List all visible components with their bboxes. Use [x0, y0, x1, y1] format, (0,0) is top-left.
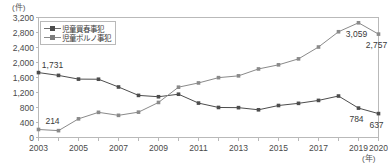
series-marker	[57, 129, 61, 133]
series-marker	[117, 114, 121, 118]
series-marker	[37, 128, 41, 132]
series-marker	[237, 74, 241, 78]
data-point-label: 784	[349, 114, 363, 124]
legend-item: 児童ポルノ事犯	[44, 33, 111, 42]
series-marker	[77, 77, 81, 81]
series-marker	[297, 57, 301, 61]
series-marker	[377, 32, 381, 36]
series-marker	[197, 81, 201, 85]
data-point-label: 2,757	[366, 40, 387, 50]
series-marker	[277, 104, 281, 108]
series-marker	[77, 117, 81, 121]
series-marker	[357, 106, 361, 110]
series-marker	[277, 63, 281, 67]
chart-legend: 児童買春事犯 児童ポルノ事犯	[40, 21, 116, 45]
data-point-label: 214	[45, 116, 59, 126]
series-marker	[357, 21, 361, 25]
legend-item-label: 児童ポルノ事犯	[62, 32, 111, 43]
series-marker	[197, 101, 201, 105]
series-marker	[317, 45, 321, 49]
series-marker	[217, 106, 221, 110]
series-marker	[257, 67, 261, 71]
series-marker	[137, 94, 141, 98]
series-marker	[317, 99, 321, 103]
data-point-label: 1,731	[42, 60, 63, 70]
series-marker	[377, 112, 381, 116]
series-marker	[97, 111, 101, 115]
series-marker	[157, 101, 161, 105]
series-marker	[177, 92, 181, 96]
series-marker	[297, 102, 301, 106]
data-point-label: 637	[369, 120, 383, 130]
series-marker	[117, 85, 121, 89]
data-point-label: 3,059	[346, 29, 367, 39]
series-marker	[97, 77, 101, 81]
series-marker	[177, 85, 181, 89]
series-marker	[57, 74, 61, 78]
series-marker	[257, 108, 261, 112]
series-marker	[157, 95, 161, 99]
series-marker	[217, 76, 221, 80]
legend-marker-icon	[44, 33, 61, 42]
series-marker	[337, 30, 341, 34]
series-marker	[37, 71, 41, 75]
series-line	[39, 73, 379, 114]
series-marker	[337, 94, 341, 98]
series-marker	[237, 106, 241, 110]
legend-marker-icon	[44, 24, 61, 33]
series-marker	[137, 110, 141, 114]
